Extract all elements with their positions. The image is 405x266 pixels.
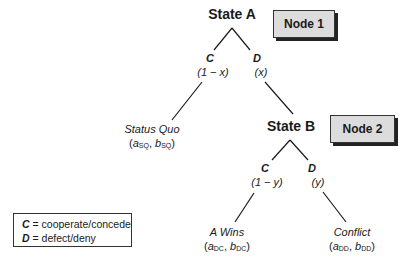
node-2-tag: Node 2 xyxy=(330,115,395,143)
state-a-label: State A xyxy=(208,6,256,22)
edge-b-c-upper xyxy=(272,140,290,160)
move-d-b: D xyxy=(308,162,316,174)
move-c-b: C xyxy=(261,162,269,174)
prob-c-a: (1 − x) xyxy=(197,66,228,78)
move-d-a: D xyxy=(253,52,261,64)
payoff-conflict: (aDD, bDD) xyxy=(329,240,375,252)
edge-a-c-upper xyxy=(214,28,232,50)
outcome-conflict: Conflict xyxy=(334,226,371,238)
node-1-tag: Node 1 xyxy=(273,10,335,38)
legend-item-d: D = defect/deny xyxy=(22,231,131,245)
edge-a-d-lower xyxy=(265,82,293,114)
legend-box: C = cooperate/concede D = defect/deny xyxy=(13,213,132,247)
edge-b-d-upper xyxy=(290,140,308,160)
prob-d-a: (x) xyxy=(255,66,268,78)
legend-item-c: C = cooperate/concede xyxy=(22,217,131,231)
edge-b-c-lower xyxy=(235,193,254,222)
payoff-status-quo: (aSQ, bSQ) xyxy=(129,137,175,149)
state-b-label: State B xyxy=(267,118,315,134)
edge-a-c-lower xyxy=(172,82,202,120)
prob-d-b: (y) xyxy=(312,176,325,188)
outcome-status-quo: Status Quo xyxy=(124,123,179,135)
prob-c-b: (1 − y) xyxy=(251,176,282,188)
edge-b-d-lower xyxy=(323,192,346,222)
edge-a-d-upper xyxy=(232,28,250,50)
payoff-a-wins: (aDC, bDC) xyxy=(204,240,250,252)
outcome-a-wins: A Wins xyxy=(210,226,244,238)
move-c-a: C xyxy=(206,52,214,64)
